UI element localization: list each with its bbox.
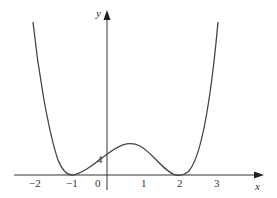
x-tick-label: −1	[66, 177, 78, 189]
curve-quartic	[33, 22, 218, 175]
x-tick-label: 2	[177, 177, 183, 189]
function-graph: y x −2 −1 0 1 2 3 4	[0, 0, 277, 198]
y-axis-arrow-icon	[104, 10, 111, 20]
x-tick-label: −2	[29, 177, 41, 189]
x-axis-arrow-icon	[254, 172, 264, 179]
x-tick-label: 1	[141, 177, 147, 189]
x-tick-label: 3	[214, 177, 220, 189]
y-tick-label: 4	[97, 153, 103, 165]
y-axis-label: y	[95, 7, 101, 19]
x-tick-label: 0	[95, 177, 101, 189]
x-axis-label: x	[254, 180, 260, 192]
